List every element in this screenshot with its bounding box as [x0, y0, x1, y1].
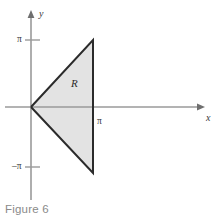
y-tick-label-pi: π — [17, 35, 22, 45]
figure-container: y x π –π π R — [0, 0, 218, 221]
figure-caption: Figure 6 — [5, 203, 49, 217]
x-tick-label-pi: π — [97, 117, 102, 127]
x-axis-label: x — [206, 113, 210, 123]
y-axis-arrowhead — [28, 10, 35, 18]
x-axis-arrowhead — [197, 104, 205, 111]
coordinate-plot — [0, 0, 218, 221]
region-label-R: R — [71, 78, 78, 89]
y-tick-label-negative-pi: –π — [12, 162, 22, 172]
y-axis-label: y — [39, 9, 43, 19]
